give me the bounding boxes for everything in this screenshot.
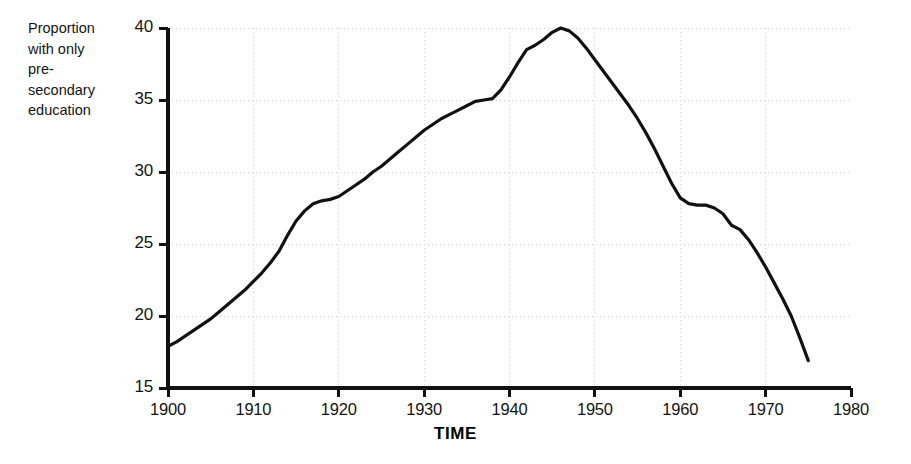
y-tick-label: 40	[107, 17, 153, 37]
y-tick-label: 20	[107, 305, 153, 325]
x-tick-label: 1920	[304, 400, 374, 419]
y-tick-label: 15	[107, 377, 153, 397]
y-tick-label: 30	[107, 161, 153, 181]
x-tick-label: 1900	[133, 400, 203, 419]
gridlines	[168, 28, 851, 388]
x-tick-label: 1910	[218, 400, 288, 419]
y-tick-label: 25	[107, 233, 153, 253]
x-tick-label: 1970	[731, 400, 801, 419]
y-tick-label: 35	[107, 89, 153, 109]
x-tick-label: 1940	[475, 400, 545, 419]
chart-figure: Proportion with only pre- secondary educ…	[0, 0, 911, 464]
x-tick-label: 1950	[560, 400, 630, 419]
x-tick-label: 1980	[816, 400, 886, 419]
x-axis-title: TIME	[0, 424, 911, 444]
data-series-line	[168, 28, 808, 361]
x-tick-label: 1930	[389, 400, 459, 419]
x-tick-label: 1960	[645, 400, 715, 419]
